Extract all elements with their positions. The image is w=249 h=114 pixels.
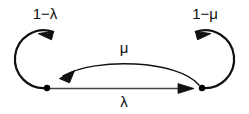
mu-transition-path (63, 64, 199, 85)
right-self-loop-path (196, 30, 234, 88)
left-self-loop-path (15, 30, 53, 88)
lambda-transition-label: λ (120, 93, 128, 110)
markov-chain-diagram: 1−λ 1−μ μ λ (0, 0, 249, 114)
left-self-loop-label: 1−λ (33, 5, 58, 22)
right-self-loop-edge (195, 30, 234, 88)
lambda-transition-edge (47, 84, 194, 94)
left-self-loop-arrowhead (38, 31, 53, 39)
mu-transition-arrowhead (60, 71, 75, 83)
right-state-node (199, 85, 205, 91)
left-state-node (44, 85, 50, 91)
mu-transition-edge (60, 64, 200, 85)
right-self-loop-arrowhead (195, 31, 210, 39)
diagram-canvas: 1−λ 1−μ μ λ (0, 0, 249, 114)
right-self-loop-label: 1−μ (192, 5, 218, 22)
mu-transition-label: μ (120, 39, 129, 56)
left-self-loop-edge (15, 30, 54, 88)
lambda-transition-arrowhead (178, 84, 194, 94)
